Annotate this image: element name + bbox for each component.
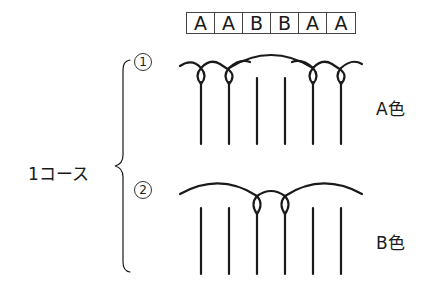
brace-icon — [115, 60, 130, 272]
yarn-step-2 — [180, 183, 362, 214]
stitch-lines-step-2 — [201, 208, 341, 274]
yarn-step-1 — [180, 55, 362, 84]
stitch-lines-step-1 — [201, 78, 341, 144]
knitting-diagram — [0, 0, 448, 296]
